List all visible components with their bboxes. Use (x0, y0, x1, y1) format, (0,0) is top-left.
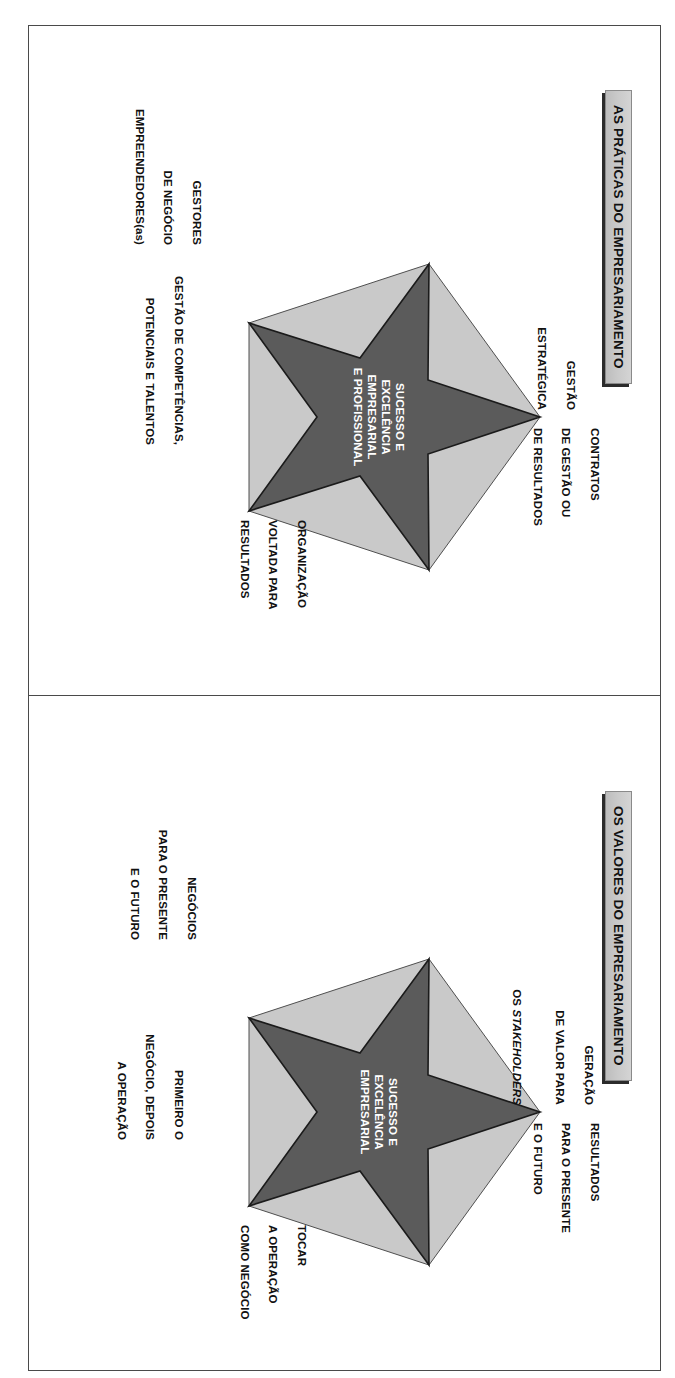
valores-node-ur-line-1: RESULTADOS (588, 1123, 602, 1343)
praticas-node-upper-right: CONTRATOS DE GESTÃO OU DE RESULTADOS (516, 428, 616, 648)
praticas-node-lr-line-3: RESULTADOS (238, 520, 252, 720)
valores-node-ll-line-1: PRIMEIRO O (172, 910, 186, 1140)
panel-divider (28, 695, 661, 696)
praticas-node-lr-line-2: VOLTADA PARA (266, 520, 280, 720)
valores-node-top-line-1: GERAÇÃO (582, 875, 596, 1105)
valores-node-top-line-3: OS STAKEHOLDERS (510, 875, 539, 1105)
valores-node-ul-line-2: PARA O PRESENTE (156, 745, 170, 940)
valores-node-lower-right: TOCAR A OPERAÇÃO COMO NEGÓCIO (223, 1225, 323, 1378)
praticas-node-ul-line-3: EMPREENDEDORES(as) (133, 40, 147, 245)
praticas-node-lr-line-1: ORGANIZAÇÃO (295, 520, 309, 720)
valores-node-lr-line-3: COMO NEGÓCIO (238, 1225, 252, 1378)
panel-praticas-canvas: AS PRÁTICAS DO EMPRESARIAMENTO SUCESSO E… (0, 30, 668, 658)
valores-node-upper-right: RESULTADOS PARA O PRESENTE E O FUTURO (516, 1123, 616, 1343)
praticas-node-top: GESTÃO ESTRATÉGICA (521, 210, 592, 410)
diagram-page: AS PRÁTICAS DO EMPRESARIAMENTO SUCESSO E… (0, 0, 675, 1378)
panel-valores-title: OS VALORES DO EMPRESARIAMENTO (611, 806, 626, 1066)
praticas-node-top-line-2: ESTRATÉGICA (535, 210, 549, 410)
valores-node-top-line-2: DE VALOR PARA (553, 875, 567, 1105)
valores-node-lr-line-2: A OPERAÇÃO (266, 1225, 280, 1378)
valores-node-ul-line-3: E O FUTURO (128, 745, 142, 940)
praticas-node-upper-left: GESTORES DE NEGÓCIO EMPREENDEDORES(as) (118, 40, 218, 245)
valores-node-top-prefix: OS (512, 989, 524, 1009)
praticas-node-ur-line-2: DE GESTÃO OU (559, 428, 573, 648)
praticas-node-top-line-1: GESTÃO (564, 210, 578, 410)
panel-valores-canvas: OS VALORES DO EMPRESARIAMENTO SUCESSO E … (0, 725, 668, 1353)
valores-node-lower-left: PRIMEIRO O NEGÓCIO, DEPOIS A OPERAÇÃO (100, 910, 200, 1140)
praticas-node-lower-right: ORGANIZAÇÃO VOLTADA PARA RESULTADOS (223, 520, 323, 720)
valores-node-top-stakeholders: STAKEHOLDERS (512, 1009, 524, 1105)
panel-valores: OS VALORES DO EMPRESARIAMENTO SUCESSO E … (0, 725, 668, 1353)
panel-praticas-title: AS PRÁTICAS DO EMPRESARIAMENTO (611, 105, 626, 369)
valores-node-ul-line-1: NEGÓCIOS (185, 745, 199, 940)
valores-node-ur-line-3: E O FUTURO (531, 1123, 545, 1343)
valores-node-lr-line-1: TOCAR (295, 1225, 309, 1378)
praticas-node-ur-line-1: CONTRATOS (588, 428, 602, 648)
valores-node-ll-line-2: NEGÓCIO, DEPOIS (143, 910, 157, 1140)
panel-praticas: AS PRÁTICAS DO EMPRESARIAMENTO SUCESSO E… (0, 30, 668, 658)
valores-node-ll-line-3: A OPERAÇÃO (115, 910, 129, 1140)
valores-node-upper-left: NEGÓCIOS PARA O PRESENTE E O FUTURO (113, 745, 213, 940)
praticas-node-ul-line-1: GESTORES (190, 40, 204, 245)
praticas-node-ul-line-2: DE NEGÓCIO (161, 40, 175, 245)
panel-praticas-title-plaque: AS PRÁTICAS DO EMPRESARIAMENTO (605, 90, 632, 384)
praticas-node-ur-line-3: DE RESULTADOS (531, 428, 545, 648)
valores-node-ur-line-2: PARA O PRESENTE (559, 1123, 573, 1343)
valores-node-top: GERAÇÃO DE VALOR PARA OS STAKEHOLDERS (496, 875, 610, 1105)
